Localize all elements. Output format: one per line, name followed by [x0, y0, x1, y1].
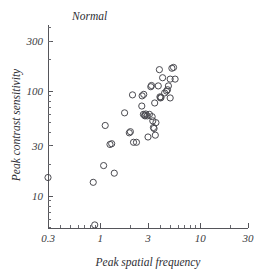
- text-layer: Normal Peak spatial frequency Peak contr…: [0, 0, 273, 273]
- plot-title: Normal: [71, 10, 107, 22]
- y-axis-title: Peak contrast sensitivity: [10, 68, 23, 182]
- x-axis-title: Peak spatial frequency: [95, 256, 202, 269]
- figure-scatter-normal: 10301003000.3131030 Normal Peak spatial …: [0, 0, 273, 273]
